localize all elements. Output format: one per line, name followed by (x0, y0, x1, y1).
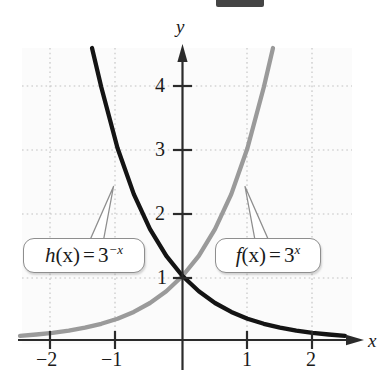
plot-background (22, 48, 352, 344)
callout-f-equals: = (266, 243, 284, 267)
callout-h-equals: = (80, 243, 98, 267)
y-tick-label-2: 2 (155, 202, 165, 225)
callout-h-variable: (x) (56, 243, 81, 267)
x-tick-label-neg2: −2 (36, 348, 57, 371)
x-tick-label-2: 2 (306, 348, 316, 371)
callout-h: h(x)=3−x (23, 238, 145, 273)
x-axis-label: x (368, 330, 376, 352)
exponential-functions-figure: y x −2 −1 1 2 1 2 3 4 h(x)=3−x f(x)=3x (0, 0, 386, 386)
callout-f-variable: (x) (242, 243, 267, 267)
y-tick-label-3: 3 (155, 138, 165, 161)
plot-canvas (0, 0, 386, 386)
callout-f-text: f(x)=3x (236, 243, 300, 268)
y-axis-label: y (176, 16, 184, 38)
callout-h-exponent: −x (108, 242, 123, 257)
callout-h-base: 3 (98, 243, 109, 267)
y-tick-label-4: 4 (155, 74, 165, 97)
x-tick-label-neg1: −1 (101, 348, 122, 371)
callout-f: f(x)=3x (215, 238, 321, 273)
callout-h-text: h(x)=3−x (45, 243, 123, 268)
callout-f-exponent: x (294, 242, 300, 257)
callout-f-base: 3 (284, 243, 295, 267)
callout-h-function-name: h (45, 243, 56, 267)
x-tick-label-1: 1 (242, 348, 252, 371)
y-tick-label-1: 1 (157, 266, 167, 289)
